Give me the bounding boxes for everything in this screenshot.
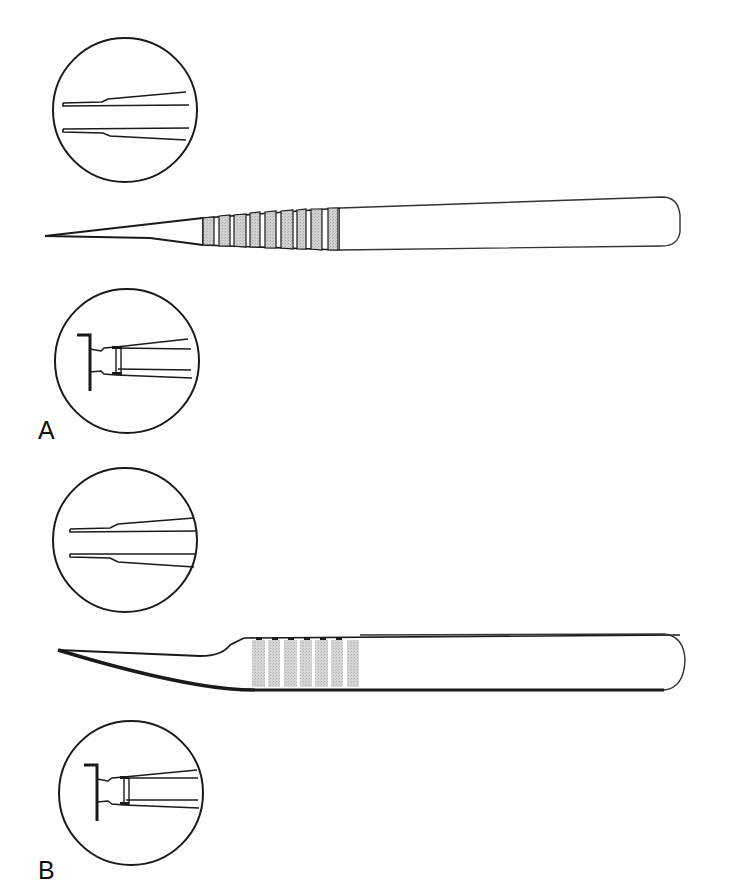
panel-label-b: B <box>38 858 55 883</box>
panel-a <box>45 38 680 433</box>
curved-forceps <box>58 634 685 690</box>
straight-forceps <box>45 197 680 250</box>
forceps-illustration <box>0 0 733 891</box>
hinge-closeup-b <box>59 721 203 865</box>
grip-serrations-a <box>203 208 338 250</box>
tip-closeup-a <box>53 38 197 182</box>
panel-b <box>53 468 685 865</box>
panel-label-a: A <box>38 418 55 443</box>
hinge-closeup-a <box>55 289 199 433</box>
grip-serrations-b <box>252 637 359 687</box>
tip-closeup-b <box>53 468 197 612</box>
